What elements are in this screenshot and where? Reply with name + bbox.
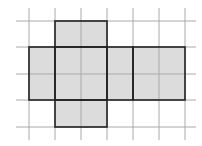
net-diagram [0, 0, 202, 146]
